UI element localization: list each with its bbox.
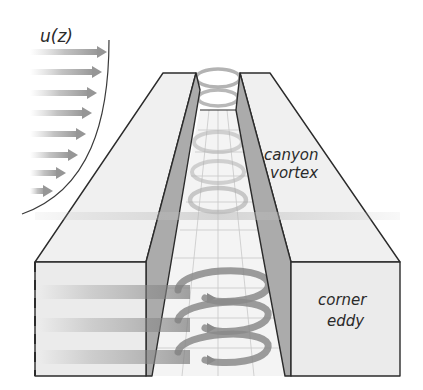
profile-arrow (30, 107, 92, 119)
canyon-vortex-label-2: vortex (270, 164, 318, 182)
corner-eddy-label-2: eddy (327, 312, 365, 330)
profile-arrow (30, 185, 53, 197)
street-canyon-diagram: u(z) (0, 0, 423, 390)
incoming-flow-bands (40, 285, 190, 364)
profile-arrow (30, 128, 86, 140)
canyon-vortex-label-1: canyon (264, 146, 319, 164)
profile-arrow (30, 66, 102, 78)
profile-arrow (30, 46, 107, 58)
corner-eddy-label-1: corner (318, 291, 367, 309)
profile-arrow (30, 87, 97, 99)
profile-label: u(z) (40, 26, 73, 46)
roof-haze-band (35, 212, 400, 220)
profile-arrow (30, 149, 78, 161)
profile-arrow (30, 167, 66, 179)
